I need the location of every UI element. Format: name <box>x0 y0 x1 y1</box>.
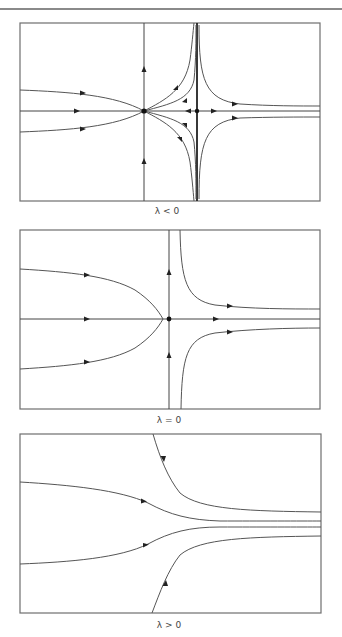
arrow-down-left-icon <box>173 85 178 90</box>
trajectory-upper-right <box>180 230 320 309</box>
caption-lambda-negative: λ < 0 <box>155 206 180 216</box>
trajectory-node-up-outer <box>144 23 194 111</box>
panel-frame <box>20 23 320 201</box>
arrow-right-icon <box>84 317 90 322</box>
stable-node-point <box>141 108 146 113</box>
arrow-up-icon <box>142 66 147 72</box>
trajectory-lower-left <box>20 319 163 369</box>
arrow-right-icon <box>227 330 233 335</box>
trajectory-upper-left <box>20 269 163 319</box>
phase-portrait-figure: λ < 0 λ = 0 λ > 0 <box>0 0 342 637</box>
panel-frame <box>20 434 321 613</box>
trajectory-upper-right <box>199 25 320 106</box>
arrow-right-icon <box>84 360 90 365</box>
caption-lambda-zero: λ = 0 <box>157 415 182 425</box>
arrow-up-icon <box>167 352 172 358</box>
arrow-right-icon <box>232 102 238 107</box>
trajectory-lower-right <box>181 328 320 409</box>
trajectory-lower-right <box>199 117 320 199</box>
caption-lambda-positive: λ > 0 <box>157 620 182 630</box>
arrow-down-left-icon <box>182 98 187 103</box>
panel-lambda-negative: λ < 0 <box>20 23 320 216</box>
arrow-up-left-icon <box>177 137 182 142</box>
arrow-right-icon <box>141 499 147 504</box>
arrow-left-icon <box>185 109 191 114</box>
arrow-up-icon <box>167 269 172 275</box>
arrow-right-icon <box>213 317 219 322</box>
arrow-right-icon <box>211 109 217 114</box>
arrow-right-icon <box>232 116 238 121</box>
arrow-right-icon <box>84 273 90 278</box>
saddle-node-point <box>167 317 172 322</box>
trajectory-lower-right <box>152 536 321 613</box>
arrow-right-icon <box>74 109 80 114</box>
arrow-up-icon <box>142 158 147 164</box>
panel-lambda-positive: λ > 0 <box>20 434 321 630</box>
trajectory-upper-right <box>153 434 321 512</box>
panel-lambda-zero: λ = 0 <box>20 230 320 425</box>
arrow-right-icon <box>227 304 233 309</box>
trajectory-upper-left <box>20 482 321 521</box>
saddle-point <box>195 109 199 113</box>
trajectory-lower-left <box>20 527 321 564</box>
